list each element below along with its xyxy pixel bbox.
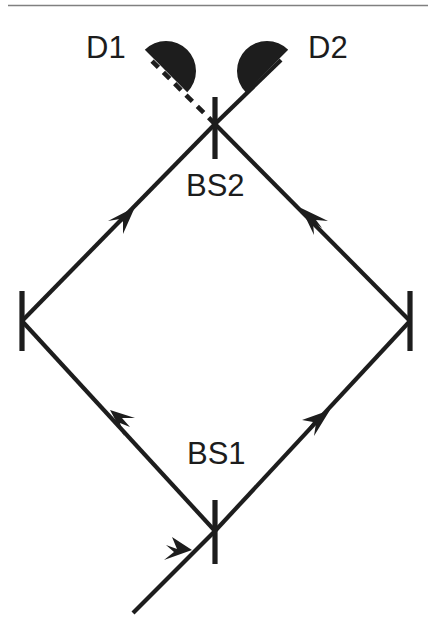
label-beamsplitter-2: BS2 [186,168,245,203]
interferometer-figure: D1 D2 BS2 BS1 [0,0,436,640]
arrowhead-upper-right-arm [301,208,328,235]
beam-lower-right-arm [215,321,410,531]
interferometer-diagram: D1 D2 BS2 BS1 [0,0,436,640]
label-beamsplitter-1: BS1 [187,436,246,471]
label-detector-1: D1 [86,30,126,65]
beam-lower-left-arm [22,321,215,531]
label-detector-2: D2 [308,30,348,65]
beam-input [133,531,215,613]
